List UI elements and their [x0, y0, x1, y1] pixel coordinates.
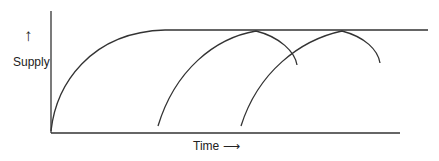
y-axis-arrow-icon: ↑ — [24, 27, 33, 44]
second-supply-curve — [158, 31, 297, 126]
initial-supply-curve — [51, 30, 428, 131]
x-axis-label: Time ⟶ — [193, 139, 240, 153]
supply-time-diagram — [0, 0, 439, 161]
third-supply-curve — [241, 31, 380, 126]
y-axis-label: Supply — [13, 55, 50, 69]
